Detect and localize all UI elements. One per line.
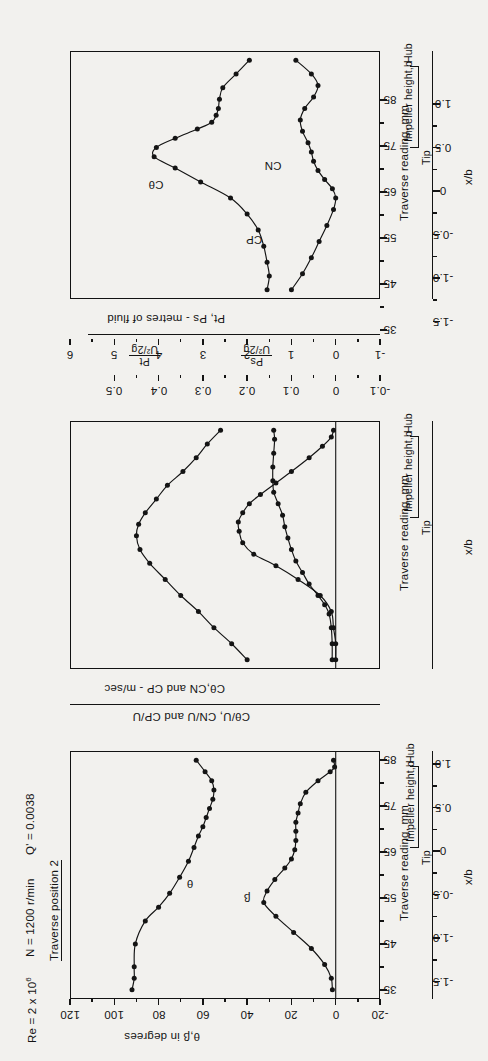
panel-angles-impeller-label: Impeller height,b: [404, 761, 416, 842]
data-point: [293, 58, 298, 63]
data-point: [273, 914, 278, 919]
data-point: [205, 441, 210, 446]
data-point: [293, 820, 298, 825]
data-point: [270, 464, 275, 469]
x-tick-label: 85: [383, 754, 396, 766]
x-tick-label: 1.0: [435, 758, 452, 770]
y-tick-mark: [69, 999, 70, 1005]
x-tick-label: 65: [383, 846, 396, 858]
panel-pressures-x2-title: x/b: [462, 169, 474, 185]
data-point: [333, 195, 338, 200]
curve-Cθ: [136, 430, 247, 660]
data-point: [307, 455, 312, 460]
data-point: [247, 501, 252, 506]
data-point: [217, 97, 222, 102]
x-minor-tick-mark: [433, 916, 437, 917]
data-point: [296, 811, 301, 816]
x-minor-tick-mark: [433, 959, 437, 960]
data-point: [289, 547, 294, 552]
data-point: [322, 962, 327, 967]
x-minor-tick-mark: [380, 828, 384, 829]
y-tick-label: 100: [104, 1009, 124, 1021]
y-tick-label: 0.3: [195, 385, 212, 397]
x-tick-label: 0.5: [435, 802, 452, 814]
ps-ratio-numerator: Ps: [241, 355, 272, 367]
data-point: [245, 657, 250, 662]
y-tick-label: 0.2: [239, 385, 256, 397]
y-tick-label: 120: [60, 1009, 80, 1021]
data-point: [272, 437, 277, 442]
y-tick-mark: [335, 375, 336, 381]
x-minor-tick-mark: [380, 966, 384, 967]
data-point: [240, 540, 245, 545]
data-point: [320, 444, 325, 449]
data-point: [311, 159, 316, 164]
y-tick-label: 60: [196, 1009, 209, 1021]
data-point: [329, 435, 334, 440]
data-point: [152, 154, 157, 159]
y-tick-mark: [114, 999, 115, 1005]
data-point: [228, 195, 233, 200]
y-minor-tick-mark: [357, 375, 358, 379]
y-minor-tick-mark: [269, 999, 270, 1003]
data-point: [209, 778, 214, 783]
data-point: [234, 71, 239, 76]
data-point: [322, 177, 327, 182]
data-point: [271, 451, 276, 456]
panel-velocities-impeller-span: [418, 436, 419, 518]
panel-velocities-y2-axis: [70, 704, 380, 705]
data-point: [265, 260, 270, 265]
data-point: [329, 609, 334, 614]
data-point: [137, 547, 142, 552]
y-minor-tick-mark: [91, 999, 92, 1003]
data-point: [236, 520, 241, 525]
data-point: [291, 930, 296, 935]
data-point: [196, 609, 201, 614]
data-point: [332, 765, 337, 770]
data-point: [293, 559, 298, 564]
data-point: [309, 255, 314, 260]
y-minor-tick-mark: [136, 375, 137, 379]
curve-CP: [238, 430, 336, 660]
data-point: [218, 428, 223, 433]
y-minor-tick-mark: [224, 999, 225, 1003]
data-point: [289, 856, 294, 861]
data-point: [282, 866, 287, 871]
data-point: [300, 129, 305, 134]
panel-pressures-hub-label: Hub: [402, 43, 414, 63]
data-point: [331, 625, 336, 630]
y-tick-label: 40: [241, 1009, 254, 1021]
data-point: [300, 271, 305, 276]
y-tick-mark: [246, 375, 247, 381]
x-minor-tick-mark: [380, 874, 384, 875]
panel-angles-impeller-tip-cap: [410, 847, 419, 848]
data-point: [309, 71, 314, 76]
y-minor-tick-mark: [180, 999, 181, 1003]
data-point: [324, 223, 329, 228]
data-point: [194, 758, 199, 763]
y-tick-mark: [158, 999, 159, 1005]
data-point: [154, 497, 159, 502]
data-point: [143, 918, 148, 923]
panel-pressures-impeller-label: Impeller height,b: [402, 61, 414, 142]
data-point: [316, 168, 321, 173]
panel-angles: 120100806040200-20 θ,β in degrees 354555…: [0, 731, 488, 1061]
x-tick-label: 55: [383, 892, 396, 904]
data-point: [289, 469, 294, 474]
data-point: [298, 117, 303, 122]
data-point: [147, 561, 152, 566]
data-point: [214, 113, 219, 118]
data-point: [289, 287, 294, 292]
y-minor-tick-mark: [313, 375, 314, 379]
data-point: [333, 657, 338, 662]
data-point: [132, 976, 137, 981]
panel-velocities-y-title: Cθ,CN and CP - m/sec: [104, 683, 225, 695]
data-point: [280, 513, 285, 518]
y-tick-label: 0.4: [150, 385, 167, 397]
y-tick-mark: [291, 375, 292, 381]
x-minor-tick-mark: [433, 785, 437, 786]
data-point: [204, 815, 209, 820]
data-point: [180, 469, 185, 474]
y-tick-label: 20: [285, 1009, 298, 1021]
data-point: [154, 145, 159, 150]
